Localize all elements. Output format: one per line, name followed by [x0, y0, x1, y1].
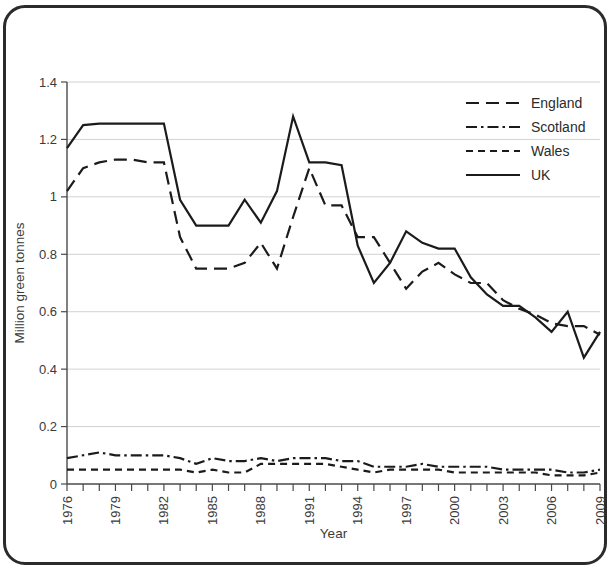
x-tick-label: 1994: [350, 496, 365, 525]
x-tick-label: 1982: [156, 496, 171, 525]
x-tick-label: 1991: [302, 496, 317, 525]
y-tick-label: 0.2: [39, 419, 57, 434]
y-tick-label: 0: [50, 477, 57, 492]
y-tick-label: 0.4: [39, 362, 57, 377]
x-axis-title: Year: [320, 526, 348, 541]
x-tick-label: 1976: [60, 496, 75, 525]
legend-label-uk: UK: [531, 167, 551, 183]
y-tick-label: 1.2: [39, 132, 57, 147]
x-tick-label: 1997: [399, 496, 414, 525]
x-tick-label: 1979: [108, 496, 123, 525]
x-tick-label: 2000: [447, 496, 462, 525]
x-tick-label: 2006: [544, 496, 559, 525]
legend-label-wales: Wales: [531, 143, 569, 159]
y-tick-label: 0.6: [39, 304, 57, 319]
x-tick-label: 2003: [496, 496, 511, 525]
y-tick-label: 1: [50, 189, 57, 204]
series-line-scotland: [67, 452, 600, 472]
legend-label-scotland: Scotland: [531, 119, 585, 135]
y-tick-label: 0.8: [39, 247, 57, 262]
series-line-uk: [67, 116, 600, 357]
y-axis-title: Million green tonnes: [12, 222, 27, 343]
y-tick-label: 1.4: [39, 75, 57, 90]
series-line-england: [67, 160, 600, 335]
x-tick-label: 2009: [593, 496, 608, 525]
legend-label-england: England: [531, 95, 582, 111]
x-tick-label: 1988: [253, 496, 268, 525]
x-tick-label: 1985: [205, 496, 220, 525]
